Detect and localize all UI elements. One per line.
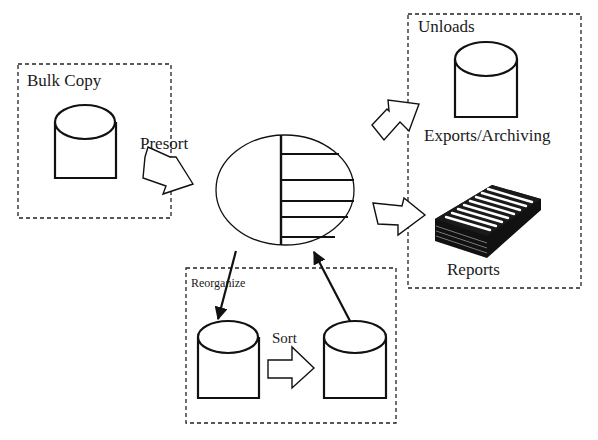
reports-label: Reports	[447, 260, 500, 280]
bulk-copy-label: Bulk Copy	[27, 71, 101, 91]
reports-stack-icon	[435, 185, 541, 258]
diagram-canvas	[0, 0, 598, 440]
presort-label: Presort	[140, 134, 188, 154]
central-table-icon	[216, 135, 354, 245]
reorg-source-database-icon	[198, 321, 259, 398]
export-database-icon	[455, 42, 517, 117]
reports-arrow-icon	[373, 198, 425, 235]
reorganize-label: Reorganize	[191, 276, 245, 291]
sort-arrow-icon	[268, 347, 314, 388]
reorg-to-table-arrow	[314, 252, 350, 321]
sort-label: Sort	[272, 330, 297, 347]
presort-arrow-icon	[143, 147, 193, 194]
reorg-target-database-icon	[324, 321, 386, 398]
bulk-copy-database-icon	[55, 105, 116, 178]
exports-archiving-label: Exports/Archiving	[424, 126, 551, 146]
export-arrow-icon	[372, 100, 419, 140]
unloads-label: Unloads	[418, 17, 475, 37]
